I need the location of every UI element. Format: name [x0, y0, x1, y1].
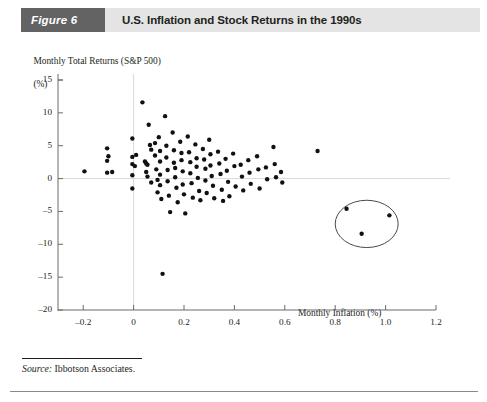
data-point — [148, 143, 152, 147]
data-point — [232, 164, 236, 168]
data-point — [387, 213, 391, 217]
data-point — [231, 151, 235, 155]
data-point — [344, 207, 348, 211]
data-point — [163, 114, 167, 118]
data-point — [216, 149, 220, 153]
data-point — [179, 151, 183, 155]
x-tick-label: 0.4 — [217, 317, 251, 327]
data-point — [359, 232, 363, 236]
data-point — [134, 153, 138, 157]
scatter-plot-svg — [0, 32, 487, 350]
data-point — [271, 145, 275, 149]
data-point — [189, 181, 193, 185]
data-point — [255, 154, 259, 158]
x-tick-label: 0 — [117, 317, 151, 327]
data-point — [176, 200, 180, 204]
data-point — [194, 165, 198, 169]
source-divider-rule — [22, 358, 142, 359]
data-point — [172, 148, 176, 152]
source-text: Ibbotson Associates. — [52, 363, 135, 374]
data-point — [315, 149, 319, 153]
data-point — [82, 169, 86, 173]
data-point — [153, 153, 157, 157]
data-point — [191, 195, 195, 199]
data-point — [256, 167, 260, 171]
data-point — [106, 154, 110, 158]
data-point — [187, 150, 191, 154]
gridlines-group — [58, 74, 450, 310]
y-tick-label: 10 — [26, 107, 52, 117]
y-tick-label: 5 — [26, 140, 52, 150]
data-point — [178, 140, 182, 144]
data-point — [188, 160, 192, 164]
data-point — [186, 134, 190, 138]
data-point — [160, 272, 164, 276]
data-point — [202, 157, 206, 161]
data-point — [280, 180, 284, 184]
data-point — [155, 190, 159, 194]
x-tick-label: 0.2 — [167, 317, 201, 327]
data-point — [154, 167, 158, 171]
y-tick-label: –5 — [26, 205, 52, 215]
data-point — [130, 186, 134, 190]
data-point — [227, 194, 231, 198]
data-point — [211, 184, 215, 188]
axes-group — [58, 74, 436, 311]
data-point — [130, 155, 134, 159]
data-point — [210, 174, 214, 178]
data-point — [233, 184, 237, 188]
y-tick-label: 0 — [26, 173, 52, 183]
data-point — [105, 146, 109, 150]
data-point — [240, 174, 244, 178]
data-point — [198, 198, 202, 202]
data-point — [218, 172, 222, 176]
data-point — [158, 183, 162, 187]
data-point — [144, 170, 148, 174]
y-tick-label: –20 — [26, 304, 52, 314]
data-point — [164, 155, 168, 159]
x-tick-label: 0.6 — [268, 317, 302, 327]
data-point — [165, 168, 169, 172]
data-point — [188, 171, 192, 175]
data-point — [257, 186, 261, 190]
data-point — [203, 167, 207, 171]
data-points-group — [82, 100, 391, 276]
figure-header-band: Figure 6 U.S. Inflation and Stock Return… — [21, 8, 480, 32]
data-point — [167, 193, 171, 197]
data-point — [164, 144, 168, 148]
data-point — [197, 189, 201, 193]
data-point — [179, 158, 183, 162]
data-point — [105, 159, 109, 163]
data-point — [223, 157, 227, 161]
y-tick-label: 15 — [26, 74, 52, 84]
data-point — [158, 172, 162, 176]
figure-title: U.S. Inflation and Stock Returns in the … — [105, 8, 480, 32]
source-label: Source: — [22, 363, 52, 374]
chart-container: Monthly Total Returns (S&P 500) (%) Mont… — [0, 32, 487, 350]
x-tick-label: –0.2 — [66, 317, 100, 327]
outlier-highlight-ellipse — [335, 200, 398, 247]
data-point — [153, 141, 157, 145]
data-point — [226, 180, 230, 184]
data-point — [201, 147, 205, 151]
data-point — [247, 170, 251, 174]
x-tick-label: 1.0 — [369, 317, 403, 327]
data-point — [181, 182, 185, 186]
data-point — [147, 122, 151, 126]
data-point — [207, 138, 211, 142]
data-point — [181, 169, 185, 173]
y-tick-label: –10 — [26, 238, 52, 248]
data-point — [173, 166, 177, 170]
data-point — [196, 176, 200, 180]
x-tick-label: 0.8 — [318, 317, 352, 327]
data-point — [208, 152, 212, 156]
data-point — [110, 170, 114, 174]
data-point — [145, 174, 149, 178]
axis-ticks-group — [58, 80, 436, 310]
data-point — [241, 188, 245, 192]
data-point — [203, 178, 207, 182]
data-point — [212, 196, 216, 200]
data-point — [217, 161, 221, 165]
data-point — [264, 165, 268, 169]
x-tick-label: 1.2 — [419, 317, 453, 327]
